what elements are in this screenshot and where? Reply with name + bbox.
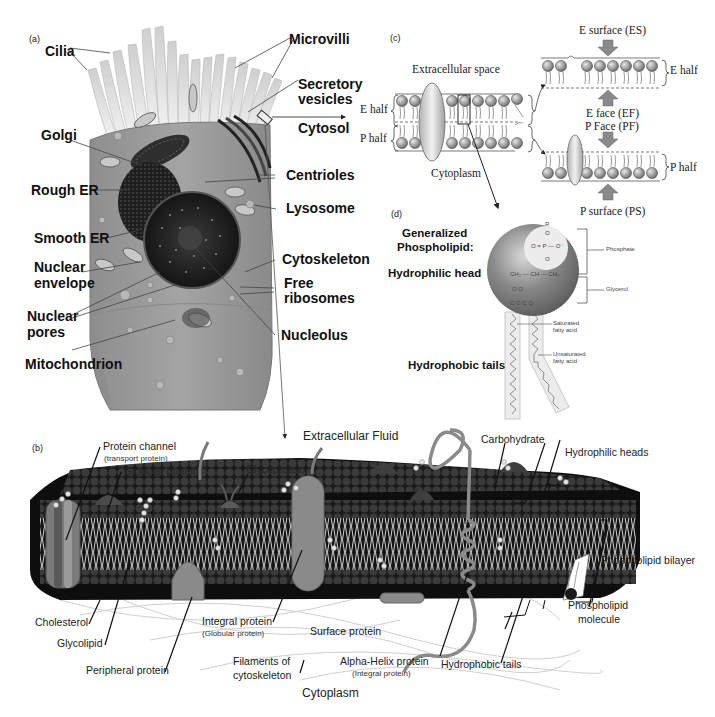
label-surface-protein: Surface protein (310, 626, 381, 637)
label-secretory-vesicles-1: Secretory (298, 77, 363, 92)
label-extracellular-space: Extracellular space (412, 63, 500, 75)
panel-label-d: (d) (391, 210, 402, 219)
label-alpha-helix: Alpha-Helix protein (340, 656, 429, 667)
label-phospholipid-molecule-1: Phospholipid (568, 600, 628, 611)
label-unsaturated-1: Unsaturated (553, 351, 586, 357)
label-phospholipid-molecule-2: molecule (578, 614, 620, 625)
label-alpha-helix-sub: (Integral protein) (352, 670, 411, 678)
label-cytoskeleton: Cytoskeleton (282, 252, 370, 267)
label-p-surface: P surface (PS) (580, 205, 645, 217)
label-cytosol: Cytosol (298, 121, 349, 136)
label-saturated-2: fatty acid (553, 327, 577, 333)
label-e-half-right: E half (670, 64, 698, 76)
surface-protein (380, 593, 424, 603)
label-generalized: Generalized (402, 227, 467, 239)
label-free-ribosomes-2: ribosomes (284, 291, 355, 306)
label-phospholipid: Phospholipid: (397, 241, 474, 253)
phospholipid-molecule-detail (487, 224, 604, 419)
panel-label-b: (b) (32, 444, 43, 453)
label-free-ribosomes-1: Free (284, 276, 314, 291)
label-cilia: Cilia (45, 44, 75, 59)
chem-c-row: C O C O (510, 300, 533, 306)
label-filaments-1: Filaments of (233, 656, 290, 667)
chem-o-row: O O (512, 286, 523, 292)
label-carbohydrate: Carbohydrate (481, 434, 545, 445)
chem-o-top: O (545, 230, 550, 236)
label-rough-er: Rough ER (31, 183, 99, 198)
nucleus (144, 192, 240, 288)
label-microvilli: Microvilli (289, 32, 350, 47)
label-saturated-1: Saturated (553, 320, 579, 326)
protein-channel (46, 500, 80, 588)
label-mitochondrion: Mitochondrion (25, 357, 122, 372)
zoom-arrow (468, 124, 498, 208)
panel-label-a: (a) (29, 35, 40, 44)
label-smooth-er: Smooth ER (34, 231, 109, 246)
label-integral-protein-sub: (Globular protein) (202, 630, 264, 638)
label-e-face: E face (EF) (586, 107, 639, 119)
integral-protein (292, 476, 324, 591)
hydrophobic-tails-bracket (504, 600, 545, 617)
label-phospholipid-bilayer: Phospholipid bilayer (601, 555, 695, 566)
label-p-half-right: P half (670, 161, 697, 173)
label-centrioles: Centrioles (286, 168, 354, 183)
label-hydrophobic-tails-b: Hydrophobic tails (441, 659, 522, 670)
label-cholesterol: Cholesterol (35, 617, 88, 628)
chem-phosphate-row: O = P — O⁻ (531, 243, 564, 249)
label-secretory-vesicles-2: vesicles (298, 92, 353, 107)
label-nucleolus: Nucleolus (281, 328, 348, 343)
label-extracellular-fluid: Extracellular Fluid (303, 430, 398, 443)
label-peripheral-protein: Peripheral protein (86, 665, 169, 676)
label-hydrophobic-tails-d: Hydrophobic tails (408, 359, 505, 371)
label-cytoplasm-c: Cytoplasm (431, 167, 481, 179)
label-protein-channel-sub: (transport protein) (104, 455, 168, 463)
panel-label-c: (c) (390, 34, 401, 43)
label-e-half-left: E half (360, 103, 388, 115)
label-protein-channel: Protein channel (103, 441, 176, 452)
label-integral-protein: Integral protein (202, 616, 272, 627)
chem-glycerol-row: CH₂ — CH — CH₂ (510, 271, 559, 277)
label-hydrophilic-head: Hydrophilic head (388, 267, 481, 279)
chem-o-bottom: O (545, 256, 550, 262)
plasma-membrane-3d (30, 430, 640, 690)
label-glycoprotein: Glycoprotein (246, 464, 305, 475)
label-globular-protein: Globular protein (124, 466, 199, 477)
label-lysosome: Lysosome (286, 201, 355, 216)
label-glycolipid: Glycolipid (57, 638, 103, 649)
label-p-half-left: P half (360, 132, 387, 144)
label-phosphate: Phosphate (606, 246, 635, 252)
label-unsaturated-2: fatty acid (553, 358, 577, 364)
label-nuclear-envelope-2: envelope (34, 276, 95, 291)
label-e-surface: E surface (ES) (579, 24, 646, 36)
label-hydrophilic-heads: Hydrophilic heads (565, 447, 648, 458)
label-nuclear-pores-1: Nuclear (27, 309, 78, 324)
integral-protein-left (419, 83, 445, 161)
label-p-face: P Face (PF) (585, 120, 639, 132)
label-golgi: Golgi (41, 128, 77, 143)
label-cytoplasm-b: Cytoplasm (302, 687, 359, 700)
label-glycerol: Glycerol (606, 286, 628, 292)
label-filaments-2: cytoskeleton (233, 670, 291, 681)
label-nuclear-envelope-1: Nuclear (34, 260, 85, 275)
chem-r: R (545, 221, 549, 227)
cell-illustration (88, 26, 282, 410)
label-nuclear-pores-2: pores (27, 325, 65, 340)
